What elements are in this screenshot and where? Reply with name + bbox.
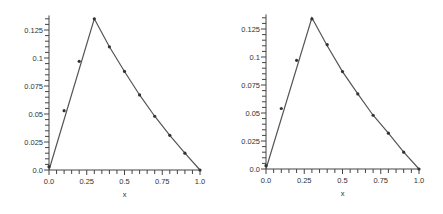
data-point	[387, 132, 390, 135]
y-tick-label: 0.125	[24, 26, 43, 35]
x-tick-label: 1.0	[195, 177, 205, 186]
x-tick-label: 0.5	[337, 176, 347, 185]
x-tick-label: 1.0	[414, 176, 424, 185]
y-tick-label: 0.0	[33, 166, 43, 175]
y-tick-label: 0.025	[24, 138, 43, 147]
data-point	[310, 17, 313, 20]
y-tick-label: 0.05	[28, 110, 43, 119]
data-curve	[49, 19, 200, 170]
x-tick-label: 0.75	[373, 176, 388, 185]
data-point	[63, 109, 66, 112]
y-tick-label: 0.0	[250, 165, 260, 174]
data-point	[356, 92, 359, 95]
data-point	[78, 60, 81, 63]
data-point	[138, 93, 141, 96]
y-tick-label: 0.1	[250, 53, 260, 62]
charts-canvas: 0.00.250.50.751.00.00.0250.050.0750.10.1…	[0, 0, 443, 214]
data-point	[183, 152, 186, 155]
y-tick-label: 0.1	[33, 54, 43, 63]
data-point	[326, 43, 329, 46]
data-point	[280, 107, 283, 110]
data-point	[198, 168, 201, 171]
data-point	[341, 70, 344, 73]
data-curve	[266, 18, 419, 169]
x-tick-label: 0.25	[297, 176, 312, 185]
x-tick-label: 0.75	[155, 177, 170, 186]
data-point	[372, 114, 375, 117]
x-tick-label: 0.25	[79, 177, 94, 186]
chart-2: 0.00.250.50.751.00.00.0250.050.0750.10.1…	[241, 14, 424, 198]
x-tick-label: 0.0	[261, 176, 271, 185]
y-tick-label: 0.075	[241, 81, 260, 90]
y-tick-label: 0.075	[24, 82, 43, 91]
data-point	[123, 70, 126, 73]
y-tick-label: 0.125	[241, 25, 260, 34]
x-axis-title: x	[123, 190, 127, 199]
y-tick-label: 0.025	[241, 137, 260, 146]
data-point	[108, 45, 111, 48]
data-point	[168, 134, 171, 137]
data-point	[417, 167, 420, 170]
data-point	[93, 17, 96, 20]
y-tick-label: 0.05	[245, 109, 260, 118]
x-tick-label: 0.0	[44, 177, 54, 186]
data-point	[264, 164, 267, 167]
x-axis-title: x	[341, 189, 345, 198]
data-point	[295, 59, 298, 62]
x-tick-label: 0.5	[119, 177, 129, 186]
data-point	[153, 115, 156, 118]
data-point	[402, 151, 405, 154]
data-point	[47, 165, 50, 168]
chart-1: 0.00.250.50.751.00.00.0250.050.0750.10.1…	[24, 15, 205, 199]
